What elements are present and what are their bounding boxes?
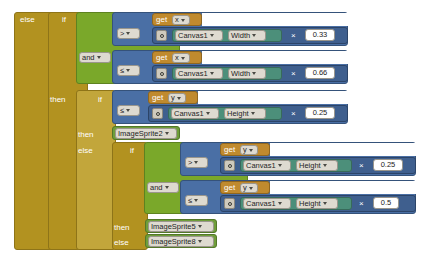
chevron-down-icon <box>323 202 327 205</box>
component-dropdown-2[interactable]: Canvas1 <box>175 68 223 79</box>
compare-operator-dropdown-4[interactable]: > <box>185 157 208 168</box>
property-dropdown-5[interactable]: Height <box>296 198 338 209</box>
chevron-down-icon <box>323 164 327 167</box>
compare-operator-label-5: ≤ <box>188 197 192 205</box>
then-label-level2: then <box>78 131 94 139</box>
and-operator-dropdown-level3[interactable]: and <box>147 182 179 193</box>
variable-name-dropdown-y-5[interactable]: y <box>240 183 258 193</box>
chevron-down-icon <box>194 161 198 164</box>
property-name-label-5: Height <box>299 200 321 208</box>
compare-operator-dropdown-5[interactable]: ≤ <box>185 195 208 206</box>
and-operator-label-2: and <box>150 184 163 192</box>
chevron-down-icon <box>249 149 253 152</box>
empty-socket-area-2 <box>202 51 348 64</box>
if-block-level2[interactable] <box>76 90 116 250</box>
multiply-operator-label-1: × <box>291 32 296 40</box>
chevron-down-icon <box>251 112 255 115</box>
compare-operator-dropdown-1[interactable]: > <box>117 28 140 39</box>
component-name-label-4: Canvas1 <box>246 162 276 170</box>
else-label-level3: else <box>114 239 129 247</box>
mutator-gear-icon-4[interactable] <box>224 160 235 171</box>
component-name-label-1: Canvas1 <box>178 32 208 40</box>
if-label-level3: if <box>130 147 134 155</box>
chevron-down-icon <box>126 109 130 112</box>
property-dropdown-1[interactable]: Width <box>228 30 266 41</box>
component-name-label-3: Canvas1 <box>174 110 204 118</box>
sprite-dropdown-imagesprite2[interactable]: ImageSprite2 <box>115 128 177 139</box>
number-field-3[interactable]: 0.25 <box>305 107 335 119</box>
component-name-label-2: Canvas1 <box>178 70 208 78</box>
chevron-down-icon <box>194 199 198 202</box>
chevron-down-icon <box>210 34 214 37</box>
multiply-operator-label-2: × <box>291 70 296 78</box>
component-name-label-5: Canvas1 <box>246 200 276 208</box>
chevron-down-icon <box>198 225 202 228</box>
sprite-name-label-imagesprite2: ImageSprite2 <box>118 130 163 138</box>
chevron-down-icon <box>165 186 169 189</box>
number-field-1[interactable]: 0.33 <box>305 29 335 41</box>
property-name-label-1: Width <box>231 32 250 40</box>
variable-name-dropdown-x-1[interactable]: x <box>172 15 190 25</box>
then-label-level3: then <box>114 224 130 232</box>
property-name-label-4: Height <box>299 162 321 170</box>
get-label-1: get <box>156 16 167 24</box>
chevron-down-icon <box>278 164 282 167</box>
compare-operator-dropdown-3[interactable]: ≤ <box>117 105 140 116</box>
get-label-2: get <box>156 54 167 62</box>
sprite-dropdown-imagesprite8[interactable]: ImageSprite8 <box>148 236 214 247</box>
compare-operator-label-3: ≤ <box>120 107 124 115</box>
chevron-down-icon <box>126 69 130 72</box>
chevron-down-icon <box>126 32 130 35</box>
get-label-3: get <box>152 94 163 102</box>
sprite-dropdown-imagesprite5[interactable]: ImageSprite5 <box>148 221 214 232</box>
property-dropdown-4[interactable]: Height <box>296 160 338 171</box>
variable-name-dropdown-x-2[interactable]: x <box>172 53 190 63</box>
sprite-name-label-imagesprite8: ImageSprite8 <box>151 238 196 246</box>
component-dropdown-1[interactable]: Canvas1 <box>175 30 223 41</box>
property-name-label-2: Width <box>231 70 250 78</box>
component-dropdown-3[interactable]: Canvas1 <box>171 108 219 119</box>
chevron-down-icon <box>249 187 253 190</box>
blocks-canvas[interactable]: else if and > get x Canvas1 Width × 0.33… <box>0 0 421 262</box>
outer-else-label: else <box>20 16 35 24</box>
empty-socket-area-5 <box>270 181 416 194</box>
compare-operator-label-4: > <box>188 159 192 167</box>
variable-name-label-y-3: y <box>171 94 175 102</box>
multiply-operator-label-4: × <box>359 162 364 170</box>
variable-name-label-x-1: x <box>175 16 179 24</box>
chevron-down-icon <box>181 57 185 60</box>
empty-socket-area-4 <box>270 143 416 156</box>
chevron-down-icon <box>210 72 214 75</box>
component-dropdown-4[interactable]: Canvas1 <box>243 160 291 171</box>
mutator-gear-icon-1[interactable] <box>156 30 167 41</box>
empty-socket-area-3 <box>198 91 348 104</box>
mutator-gear-icon-3[interactable] <box>152 108 163 119</box>
chevron-down-icon <box>198 240 202 243</box>
empty-socket-area-sprite2 <box>180 126 220 140</box>
chevron-down-icon <box>177 97 181 100</box>
chevron-down-icon <box>252 34 256 37</box>
property-dropdown-3[interactable]: Height <box>224 108 266 119</box>
chevron-down-icon <box>97 56 101 59</box>
compare-operator-dropdown-2[interactable]: ≤ <box>117 65 140 76</box>
chevron-down-icon <box>165 132 169 135</box>
mutator-gear-icon-5[interactable] <box>224 198 235 209</box>
get-label-4: get <box>224 146 235 154</box>
variable-name-dropdown-y-3[interactable]: y <box>168 93 186 103</box>
if-block-level3[interactable] <box>112 142 148 250</box>
component-dropdown-5[interactable]: Canvas1 <box>243 198 291 209</box>
mutator-gear-icon-2[interactable] <box>156 68 167 79</box>
multiply-operator-label-3: × <box>291 110 296 118</box>
compare-operator-label-2: ≤ <box>120 67 124 75</box>
variable-name-dropdown-y-4[interactable]: y <box>240 145 258 155</box>
empty-socket-area-1 <box>202 13 348 26</box>
property-dropdown-2[interactable]: Width <box>228 68 266 79</box>
number-field-4[interactable]: 0.25 <box>373 159 403 171</box>
chevron-down-icon <box>278 202 282 205</box>
then-label-level1: then <box>50 96 66 104</box>
number-field-5[interactable]: 0.5 <box>373 197 399 209</box>
number-field-2[interactable]: 0.66 <box>305 67 335 79</box>
get-label-5: get <box>224 184 235 192</box>
sprite-name-label-imagesprite5: ImageSprite5 <box>151 223 196 231</box>
and-operator-dropdown-level1[interactable]: and <box>79 52 111 63</box>
